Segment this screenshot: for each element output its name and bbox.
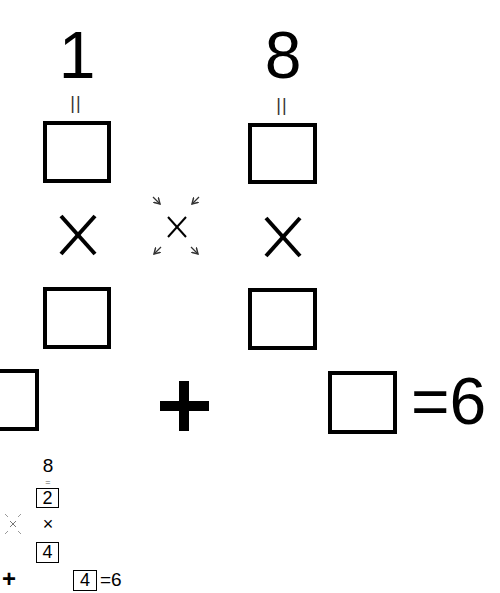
multiply-icon-left [58,213,98,257]
answer-box-bottom-right[interactable] [328,371,397,434]
answer-box-top-right[interactable] [248,123,317,184]
preview-box-3: 4 [73,570,97,591]
answer-box-top-left[interactable] [43,121,111,183]
swap-arrows-icon [147,194,207,262]
preview-equals: = [42,478,54,487]
plus-icon [160,381,210,431]
equals-vertical-right: || [272,96,292,114]
top-number-left: 1 [47,22,107,88]
preview-box-1: 2 [36,488,59,508]
preview-plus: + [2,567,16,591]
result-label: =6 [411,368,486,434]
preview-top-number: 8 [40,456,56,476]
answer-box-bottom-left[interactable] [0,369,39,431]
preview-box-2: 4 [36,542,59,563]
equals-vertical-left: || [66,94,86,112]
answer-box-middle-left[interactable] [43,287,111,349]
multiply-icon-right [263,215,303,259]
preview-multiply: × [40,514,56,534]
preview-result: =6 [100,570,122,590]
top-number-right: 8 [253,22,313,88]
answer-box-middle-right[interactable] [248,288,317,350]
preview-swap-icon [4,513,22,535]
